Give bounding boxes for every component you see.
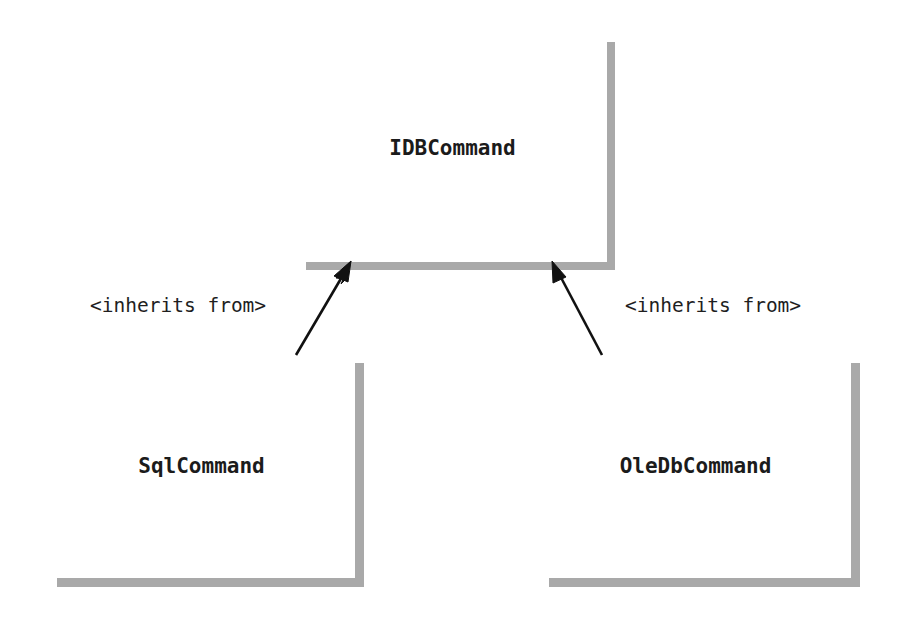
edge-label-oledb-inherits: <inherits from> bbox=[625, 296, 801, 316]
class-box-sqlcommand[interactable]: SqlCommand bbox=[48, 354, 355, 578]
class-box-oledbcommand[interactable]: OleDbCommand bbox=[540, 354, 851, 578]
edge-label-sql-inherits: <inherits from> bbox=[90, 296, 266, 316]
connector-oledb-inherits-idb bbox=[552, 261, 602, 355]
connector-line-oledb bbox=[557, 270, 602, 355]
uml-class-diagram-canvas: IDBCommand SqlCommand OleDbCommand <inhe… bbox=[0, 0, 899, 618]
class-name-sqlcommand: SqlCommand bbox=[138, 456, 264, 477]
class-name-oledbcommand: OleDbCommand bbox=[620, 456, 772, 477]
class-name-idbcommand: IDBCommand bbox=[389, 138, 515, 159]
class-box-idbcommand[interactable]: IDBCommand bbox=[298, 34, 607, 262]
connector-sql-inherits-idb bbox=[296, 261, 351, 355]
connector-line-sql bbox=[296, 270, 346, 355]
